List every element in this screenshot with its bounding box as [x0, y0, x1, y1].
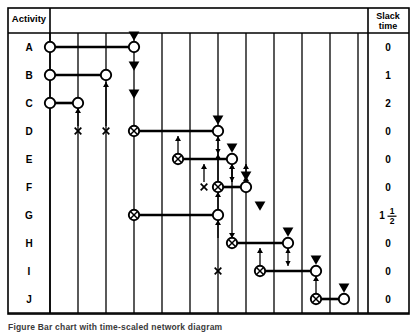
slack-value-5: 0 [385, 182, 391, 193]
up-arrow-icon-1 [103, 82, 109, 87]
row-label-f: F [26, 182, 32, 193]
open-circle-icon-end-b [101, 70, 111, 80]
down-triangle-icon-3 [213, 115, 224, 124]
down-triangle-icon-5 [241, 171, 252, 180]
down-triangle-icon-6 [255, 201, 266, 210]
row-label-g: G [25, 210, 33, 221]
figure-caption: Figure Bar chart with time-scaled networ… [8, 322, 417, 332]
down-triangle-icon-8 [311, 255, 322, 264]
row-label-h: H [25, 238, 32, 249]
slack-value-3: 0 [385, 126, 391, 137]
slack-header-line1: Slack [376, 11, 401, 21]
open-circle-icon-end-e [227, 154, 237, 164]
double-arrow-icon-bottom-2 [285, 261, 290, 266]
up-arrow-icon-3 [201, 164, 207, 169]
row-label-e: E [26, 154, 33, 165]
open-circle-icon-end-c [73, 98, 83, 108]
open-circle-icon-end-a [129, 42, 139, 52]
row-label-d: D [25, 126, 32, 137]
slack-value-denominator-6: 2 [390, 216, 395, 226]
open-circle-icon-start-c [45, 98, 55, 108]
down-triangle-icon-9 [339, 283, 350, 292]
down-triangle-icon-2 [129, 89, 140, 98]
schedule-chart: ActivitySlacktimeABCDEFGHIJ012000112000 [0, 0, 417, 332]
row-label-j: J [26, 294, 32, 305]
slack-value-7: 0 [385, 238, 391, 249]
up-arrow-icon-8 [257, 248, 263, 253]
down-triangle-icon-7 [283, 227, 294, 236]
down-triangle-icon-4 [227, 143, 238, 152]
slack-value-numerator-6: 1 [390, 206, 395, 216]
slack-value-8: 0 [385, 266, 391, 277]
double-arrow-icon-bottom-1 [229, 177, 234, 182]
open-circle-icon-end-i [311, 266, 321, 276]
figure-container: ActivitySlacktimeABCDEFGHIJ012000112000 … [0, 0, 417, 332]
slack-value-whole-6: 1 [379, 210, 385, 221]
slack-header-line2: time [379, 21, 398, 31]
row-label-a: A [25, 42, 32, 53]
slack-value-0: 0 [385, 42, 391, 53]
open-circle-icon-end-g [213, 210, 223, 220]
open-circle-icon-start-a [45, 42, 55, 52]
slack-value-9: 0 [385, 294, 391, 305]
open-circle-icon-end-d [213, 126, 223, 136]
open-circle-icon-end-h [283, 238, 293, 248]
up-arrow-icon-6 [243, 164, 249, 169]
slack-value-2: 2 [385, 98, 391, 109]
slack-value-4: 0 [385, 154, 391, 165]
activity-header: Activity [12, 13, 47, 24]
slack-value-1: 1 [385, 70, 391, 81]
open-circle-icon-end-j [339, 294, 349, 304]
down-triangle-icon-1 [129, 61, 140, 70]
chart-frame [8, 8, 409, 314]
double-arrow-icon-bottom-0 [215, 149, 220, 154]
row-label-b: B [25, 70, 32, 81]
open-circle-icon-start-b [45, 70, 55, 80]
row-label-c: C [25, 98, 32, 109]
up-arrow-icon-2 [175, 136, 181, 141]
down-triangle-icon-0 [129, 31, 140, 40]
open-circle-icon-end-f [241, 182, 251, 192]
row-label-i: I [28, 266, 31, 277]
